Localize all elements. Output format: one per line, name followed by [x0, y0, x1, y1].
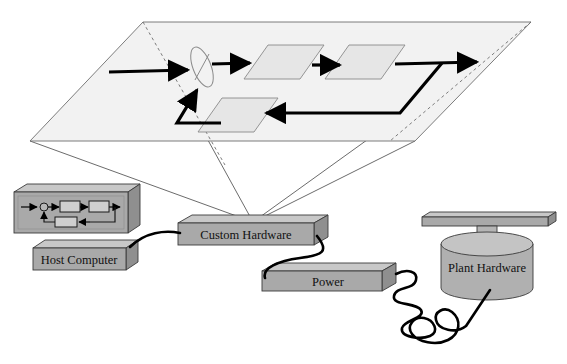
- power-top: [262, 263, 396, 271]
- plant-hardware-label: Plant Hardware: [448, 261, 527, 275]
- host-monitor-top: [14, 184, 140, 192]
- projection-line-bottom: [253, 141, 415, 222]
- host-base-top: [33, 240, 138, 248]
- custom-hardware-top: [178, 215, 328, 223]
- signal-error-to-controller: [212, 63, 250, 64]
- plane-surface: [30, 22, 531, 141]
- plant-bar-top: [422, 212, 556, 217]
- host-monitor-side: [128, 184, 140, 233]
- control-algorithm-plane: [30, 22, 531, 165]
- component-plant-hardware[interactable]: Plant Hardware: [422, 212, 556, 300]
- plant-cylinder-top: [441, 232, 533, 256]
- system-diagram: Host Computer Custom Hardware Power Plan…: [0, 0, 567, 364]
- host-computer-label: Host Computer: [41, 253, 119, 267]
- power-label: Power: [312, 275, 345, 289]
- signal-plant-output: [395, 62, 477, 64]
- signal-reference-input: [109, 70, 188, 72]
- component-power[interactable]: Power: [262, 263, 396, 291]
- component-host-computer[interactable]: Host Computer: [14, 184, 140, 270]
- custom-hardware-label: Custom Hardware: [200, 228, 292, 242]
- component-custom-hardware[interactable]: Custom Hardware: [178, 215, 328, 245]
- plant-bar-front: [422, 217, 548, 226]
